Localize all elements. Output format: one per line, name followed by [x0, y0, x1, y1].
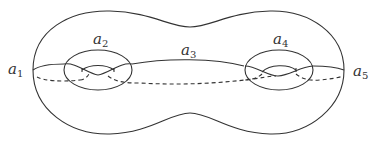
right-hole-upper-lip — [262, 66, 296, 72]
label-a3-base: a — [181, 41, 190, 59]
label-a1-sub: 1 — [17, 68, 23, 79]
label-a3: a3 — [181, 43, 196, 60]
label-a4: a4 — [273, 32, 288, 49]
label-a4-sub: 4 — [282, 38, 288, 49]
label-a1-base: a — [8, 60, 17, 78]
left-hole-dash-inner — [80, 72, 90, 80]
label-a3-sub: 3 — [190, 49, 196, 60]
curve-a3-front — [132, 60, 244, 66]
label-a5-base: a — [353, 62, 362, 80]
curve-a2 — [64, 50, 132, 90]
label-a1: a1 — [8, 62, 23, 79]
curve-a3-back — [108, 76, 276, 84]
label-a2: a2 — [93, 32, 108, 49]
curve-a4 — [245, 50, 313, 90]
label-a2-sub: 2 — [102, 38, 108, 49]
curve-a5-back — [296, 74, 343, 80]
label-a5: a5 — [353, 64, 368, 81]
surface-outline — [33, 11, 344, 134]
surface-drawing — [0, 0, 379, 144]
left-hole-upper-lip — [82, 66, 114, 71]
label-a5-sub: 5 — [362, 70, 368, 81]
label-a2-base: a — [93, 30, 102, 48]
curve-a1-front — [33, 64, 64, 70]
right-hole-lower-lip — [245, 66, 313, 76]
genus-two-surface-diagram: a1 a2 a3 a4 a5 — [0, 0, 379, 144]
curve-a5-front — [313, 66, 344, 70]
curve-a1-back — [37, 77, 80, 81]
label-a4-base: a — [273, 30, 282, 48]
